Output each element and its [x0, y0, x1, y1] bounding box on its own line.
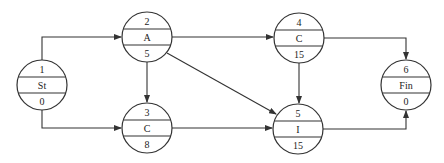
- node-duration: 0: [404, 96, 409, 107]
- edge-1-3: [42, 110, 121, 128]
- node-duration: 15: [294, 49, 304, 60]
- node-number: 6: [404, 64, 409, 75]
- node-activity: C: [144, 123, 151, 134]
- node-duration: 5: [145, 48, 150, 59]
- node-3: 3C8: [122, 103, 172, 153]
- node-6: 6Fin0: [381, 60, 431, 110]
- edge-4-6: [324, 38, 406, 59]
- node-duration: 8: [145, 139, 150, 150]
- node-number: 3: [145, 107, 150, 118]
- edge-5-6: [323, 111, 406, 129]
- node-activity: St: [38, 80, 47, 91]
- edge-1-2: [42, 37, 121, 60]
- node-activity: Fin: [399, 80, 412, 91]
- node-number: 5: [296, 108, 301, 119]
- network-diagram: 1St02A53C84C155I156Fin0: [0, 0, 444, 163]
- node-number: 2: [145, 16, 150, 27]
- diagram-svg: 1St02A53C84C155I156Fin0: [0, 0, 444, 163]
- node-number: 1: [40, 64, 45, 75]
- node-duration: 0: [40, 96, 45, 107]
- node-activity: I: [296, 124, 299, 135]
- node-5: 5I15: [273, 104, 323, 154]
- nodes: 1St02A53C84C155I156Fin0: [17, 12, 431, 154]
- node-number: 4: [297, 17, 302, 28]
- edges: [42, 37, 406, 129]
- node-duration: 15: [293, 140, 303, 151]
- node-2: 2A5: [122, 12, 172, 62]
- node-activity: C: [296, 33, 303, 44]
- node-4: 4C15: [274, 13, 324, 63]
- node-1: 1St0: [17, 60, 67, 110]
- edge-2-5: [167, 53, 276, 114]
- node-activity: A: [143, 32, 151, 43]
